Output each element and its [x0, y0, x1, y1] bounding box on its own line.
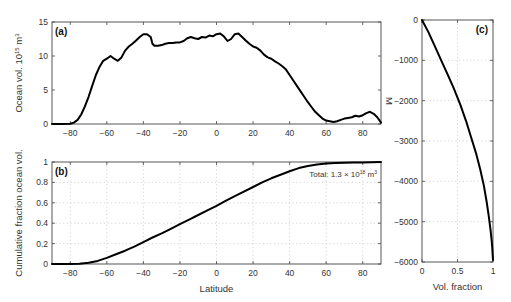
panel-a-ylabel-unit: m	[13, 37, 24, 48]
x-tick-label: 1	[491, 266, 496, 276]
y-tick-label: −2000	[394, 96, 418, 106]
x-tick-label: −20	[173, 128, 188, 138]
x-tick-label: 20	[248, 268, 258, 278]
y-tick-label: −5000	[394, 217, 418, 227]
panel-c-x-tick-labels: 00.51	[420, 266, 496, 276]
panel-c-y-tick-labels: 0−1000−2000−3000−4000−5000−6000	[394, 15, 418, 267]
panel-c-x-axis-label: Vol. fraction	[433, 281, 483, 292]
annotation-unit: m	[365, 170, 374, 179]
y-tick-label: 15	[39, 17, 49, 27]
y-tick-label: 0.8	[36, 177, 48, 187]
panel-a-y-axis-label: Ocean vol. 1015 m3	[13, 33, 24, 113]
panel-a-ocean-volume: −80−60−40−20020406080 051015 (a) Ocean v…	[13, 17, 381, 138]
panel-a-y-tick-labels: 051015	[39, 17, 49, 129]
y-tick-label: 10	[39, 51, 49, 61]
annotation-prefix: Total: 1.3 × 10	[309, 170, 360, 179]
panel-b-label: (b)	[55, 166, 68, 177]
panel-b-y-tick-labels: 00.20.40.60.81	[36, 157, 48, 269]
y-tick-label: 0	[43, 119, 48, 129]
panel-b-total-annotation: Total: 1.3 × 1018 m3	[309, 169, 377, 179]
panel-c-volume-fraction-depth: 00.51 0−1000−2000−3000−4000−5000−6000 (c…	[384, 15, 496, 292]
y-tick-label: 0	[413, 15, 418, 25]
y-tick-label: 1	[43, 157, 48, 167]
x-tick-label: 0	[214, 128, 219, 138]
x-tick-label: −40	[136, 268, 151, 278]
panel-a-ylabel-unit-exp: 3	[14, 33, 20, 37]
y-tick-label: −6000	[394, 257, 418, 267]
x-tick-label: 80	[358, 268, 368, 278]
x-tick-label: −60	[100, 268, 115, 278]
x-tick-label: −40	[136, 128, 151, 138]
figure: −80−60−40−20020406080 051015 (a) Ocean v…	[0, 0, 511, 302]
panel-a-ylabel-text: Ocean vol. 10	[13, 54, 24, 113]
panel-c-label: (c)	[476, 24, 488, 35]
y-tick-label: 0.2	[36, 239, 48, 249]
panel-b-x-axis-label: Latitude	[200, 283, 234, 294]
x-tick-label: −80	[63, 128, 78, 138]
x-tick-label: 60	[321, 128, 331, 138]
y-tick-label: −1000	[394, 55, 418, 65]
x-tick-label: −80	[63, 268, 78, 278]
x-tick-label: 60	[321, 268, 331, 278]
panel-a-x-tick-labels: −80−60−40−20020406080	[63, 128, 368, 138]
annotation-unit-exp: 3	[374, 169, 377, 175]
panel-a-frame	[52, 22, 381, 124]
panel-b-x-tick-labels: −80−60−40−20020406080	[63, 268, 368, 278]
x-tick-label: 0	[214, 268, 219, 278]
panel-c-y-axis-label: M	[384, 97, 395, 105]
x-tick-label: 0.5	[452, 266, 464, 276]
panel-c-grid	[422, 20, 493, 262]
y-tick-label: 0.4	[36, 218, 48, 228]
x-tick-label: 0	[420, 266, 425, 276]
x-tick-label: 20	[248, 128, 258, 138]
y-tick-label: 0	[43, 259, 48, 269]
x-tick-label: 80	[358, 128, 368, 138]
y-tick-label: −4000	[394, 176, 418, 186]
x-tick-label: 40	[285, 268, 295, 278]
x-tick-label: −20	[173, 268, 188, 278]
y-tick-label: −3000	[394, 136, 418, 146]
panel-a-ticks	[52, 22, 381, 124]
y-tick-label: 0.6	[36, 198, 48, 208]
panel-a-series-line	[52, 34, 381, 124]
y-tick-label: 5	[43, 85, 48, 95]
x-tick-label: 40	[285, 128, 295, 138]
x-tick-label: −60	[100, 128, 115, 138]
panel-b-y-axis-label: Cumulative fraction ocean vol.	[13, 149, 24, 276]
panel-b-cumulative-fraction: −80−60−40−20020406080 00.20.40.60.81 (b)…	[13, 149, 381, 294]
panel-a-label: (a)	[55, 26, 67, 37]
